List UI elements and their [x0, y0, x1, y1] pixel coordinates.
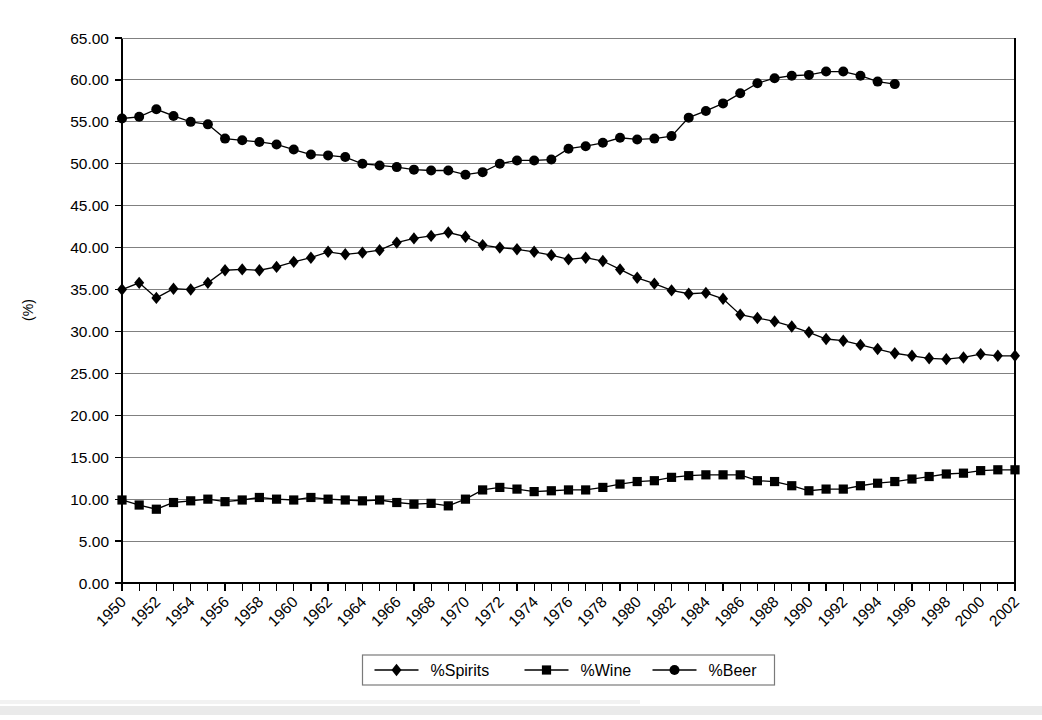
data-point-marker — [701, 106, 711, 116]
data-point-marker — [238, 495, 247, 504]
data-point-marker — [272, 495, 281, 504]
data-point-marker — [495, 483, 504, 492]
data-point-marker — [272, 139, 282, 149]
data-point-marker — [341, 495, 350, 504]
data-point-marker — [649, 134, 659, 144]
data-point-marker — [478, 485, 487, 494]
data-point-marker — [237, 135, 247, 145]
data-point-marker — [890, 477, 899, 486]
data-point-marker — [598, 138, 608, 148]
data-point-marker — [736, 470, 745, 479]
data-point-marker — [529, 155, 539, 165]
y-tick-label: 65.00 — [70, 30, 109, 47]
y-tick-label: 55.00 — [70, 113, 109, 130]
data-point-marker — [495, 159, 505, 169]
data-point-marker — [151, 104, 161, 114]
data-point-marker — [169, 498, 178, 507]
data-point-marker — [323, 150, 333, 160]
data-point-marker — [306, 493, 315, 502]
data-point-marker — [306, 150, 316, 160]
data-point-marker — [564, 485, 573, 494]
data-point-marker — [615, 479, 624, 488]
y-tick-label: 20.00 — [70, 407, 109, 424]
data-point-marker — [512, 155, 522, 165]
data-point-marker — [409, 500, 418, 509]
data-point-marker — [1010, 465, 1019, 474]
data-point-marker — [598, 483, 607, 492]
data-point-marker — [942, 469, 951, 478]
data-point-marker — [547, 486, 556, 495]
data-point-marker — [117, 113, 127, 123]
data-point-marker — [169, 111, 179, 121]
data-point-marker — [752, 78, 762, 88]
data-point-marker — [186, 117, 196, 127]
data-point-marker — [392, 498, 401, 507]
data-point-marker — [615, 133, 625, 143]
data-point-marker — [821, 484, 830, 493]
data-point-marker — [357, 159, 367, 169]
data-point-marker — [460, 170, 470, 180]
data-point-marker — [135, 500, 144, 509]
data-point-marker — [461, 495, 470, 504]
data-point-marker — [581, 141, 591, 151]
data-point-marker — [632, 134, 642, 144]
data-point-marker — [289, 145, 299, 155]
data-point-marker — [753, 476, 762, 485]
data-point-marker — [667, 473, 676, 482]
data-point-marker — [925, 472, 934, 481]
y-tick-label: 50.00 — [70, 155, 109, 172]
data-point-marker — [839, 484, 848, 493]
data-point-marker — [409, 165, 419, 175]
data-point-marker — [512, 484, 521, 493]
data-point-marker — [667, 131, 677, 141]
data-point-marker — [186, 496, 195, 505]
data-point-marker — [684, 113, 694, 123]
data-point-marker — [203, 119, 213, 129]
data-point-marker — [564, 144, 574, 154]
y-tick-label: 0.00 — [79, 575, 110, 592]
data-point-marker — [117, 495, 126, 504]
data-point-marker — [718, 98, 728, 108]
data-point-marker — [375, 160, 385, 170]
data-point-marker — [443, 165, 453, 175]
data-point-marker — [426, 165, 436, 175]
data-point-marker — [478, 167, 488, 177]
data-point-marker — [650, 476, 659, 485]
data-point-marker — [254, 137, 264, 147]
data-point-marker — [856, 481, 865, 490]
data-point-marker — [804, 486, 813, 495]
data-point-marker — [770, 477, 779, 486]
data-point-marker — [701, 470, 710, 479]
y-tick-label: 40.00 — [70, 239, 109, 256]
data-point-marker — [323, 495, 332, 504]
data-point-marker — [959, 469, 968, 478]
legend-marker-icon — [542, 665, 551, 674]
legend-label: %Spirits — [431, 662, 490, 679]
data-point-marker — [220, 497, 229, 506]
legend-label: %Wine — [581, 662, 632, 679]
data-point-marker — [787, 71, 797, 81]
data-point-marker — [444, 501, 453, 510]
y-tick-label: 45.00 — [70, 197, 109, 214]
data-point-marker — [821, 67, 831, 77]
data-point-marker — [873, 479, 882, 488]
data-point-marker — [873, 77, 883, 87]
data-point-marker — [546, 155, 556, 165]
data-point-marker — [787, 481, 796, 490]
data-point-marker — [289, 495, 298, 504]
data-point-marker — [581, 485, 590, 494]
data-point-marker — [220, 134, 230, 144]
y-axis-title: (%) — [20, 299, 36, 321]
data-point-marker — [907, 474, 916, 483]
data-point-marker — [735, 88, 745, 98]
data-point-marker — [890, 79, 900, 89]
data-point-marker — [530, 487, 539, 496]
data-point-marker — [203, 495, 212, 504]
data-point-marker — [718, 470, 727, 479]
data-point-marker — [684, 471, 693, 480]
data-point-marker — [855, 71, 865, 81]
chart-container: 0.005.0010.0015.0020.0025.0030.0035.0040… — [0, 0, 1042, 720]
y-tick-label: 15.00 — [70, 449, 109, 466]
data-point-marker — [804, 70, 814, 80]
data-point-marker — [358, 496, 367, 505]
